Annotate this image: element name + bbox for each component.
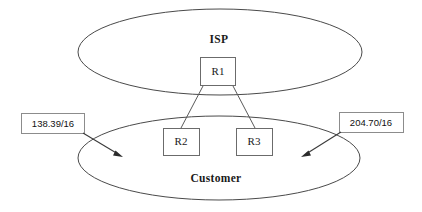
link-lines-group — [181, 86, 255, 128]
router-r3-group: R3 — [237, 129, 273, 156]
router-r3-label: R3 — [248, 135, 261, 147]
left-prefix-text: 138.39/16 — [32, 118, 74, 129]
left-prefix-pointer-line — [83, 133, 118, 154]
router-r1-group: R1 — [201, 58, 236, 86]
network-diagram: ISP Customer R1 R2 R3 138 — [0, 0, 422, 212]
isp-cloud-label: ISP — [210, 33, 229, 45]
link-r1-r2 — [181, 86, 203, 128]
link-r1-r3 — [233, 86, 255, 128]
customer-cloud-ellipse — [78, 116, 360, 200]
router-r2-group: R2 — [164, 129, 200, 156]
router-r2-label: R2 — [175, 135, 188, 147]
customer-cloud-label: Customer — [191, 172, 242, 184]
left-prefix-annotation-group: 138.39/16 — [22, 114, 124, 158]
right-prefix-pointer-line — [306, 132, 341, 154]
diagram-canvas: ISP Customer R1 R2 R3 138 — [0, 0, 422, 212]
right-prefix-annotation-group: 204.70/16 — [301, 113, 404, 158]
customer-cloud-group: Customer — [78, 116, 360, 200]
right-prefix-text: 204.70/16 — [350, 117, 392, 128]
router-r1-label: R1 — [212, 65, 225, 77]
